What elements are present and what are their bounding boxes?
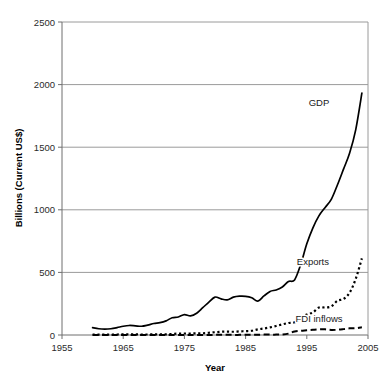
chart-background	[0, 0, 391, 386]
series-label-fdi-inflows: FDI inflows	[296, 313, 343, 324]
chart-container: 05001000150020002500 1955196519751985199…	[0, 0, 391, 386]
x-tick-label-2005: 2005	[357, 342, 378, 353]
series-label-gdp: GDP	[309, 97, 330, 108]
x-axis-title: Year	[205, 362, 225, 373]
y-tick-label-1000: 1000	[34, 204, 55, 215]
y-tick-label-1500: 1500	[34, 142, 55, 153]
y-tick-label-2000: 2000	[34, 79, 55, 90]
series-label-exports: Exports	[297, 256, 329, 267]
x-tick-label-1985: 1985	[235, 342, 256, 353]
x-tick-label-1965: 1965	[113, 342, 134, 353]
x-tick-label-1995: 1995	[296, 342, 317, 353]
y-axis-title: Billions (Current US$)	[13, 129, 24, 228]
x-tick-label-1975: 1975	[174, 342, 195, 353]
y-tick-label-0: 0	[50, 330, 55, 341]
x-tick-label-1955: 1955	[51, 342, 72, 353]
y-tick-label-500: 500	[39, 267, 55, 278]
y-tick-label-2500: 2500	[34, 17, 55, 28]
line-chart: 05001000150020002500 1955196519751985199…	[0, 0, 391, 386]
